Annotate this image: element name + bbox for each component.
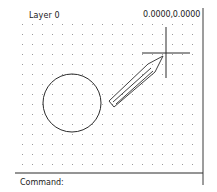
circle-entity[interactable] (43, 74, 101, 132)
cad-application: Layer 0 0.0000,0.0000 Command: (0, 0, 217, 192)
cursor-coordinates: 0.0000,0.0000 (143, 10, 200, 20)
pencil-icon (109, 56, 163, 107)
grid-dots (22, 24, 193, 165)
drawing-canvas[interactable] (0, 0, 217, 192)
current-layer-label: Layer 0 (29, 11, 60, 21)
command-prompt[interactable]: Command: (20, 178, 64, 188)
